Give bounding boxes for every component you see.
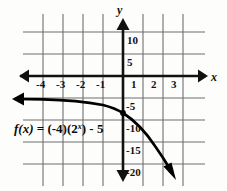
function-equation-label: f(x) = (-4)(2x) - 5 [14,121,104,136]
x-axis-label: x [210,70,217,84]
function-curve [12,93,176,181]
y-tick-label: -15 [126,144,141,156]
x-tick-label: 1 [131,78,137,90]
y-tick-label: -10 [126,122,141,134]
y-tick-label: 10 [127,34,139,46]
x-axis [19,70,208,83]
x-axis-arrow-right [198,70,208,83]
y-tick-label: 5 [127,56,133,68]
y-axis-label: y [115,3,123,17]
equation-body: = (-4)(2 [34,121,78,136]
x-tick-label: 3 [171,78,177,90]
y-tick-label: -5 [126,100,136,112]
y-tick-labels: 10 5 -5 -10 -15 -20 [126,34,141,178]
curve-arrow-down-right [163,163,176,181]
y-intercept-dot [120,110,126,116]
fx-notation: f(x) [14,121,34,136]
y-axis-arrow-up [117,18,130,30]
function-equation-text: f(x) = (-4)(2x) - 5 [14,121,104,136]
x-tick-label: -2 [76,78,86,90]
exponential-function-graph: -4 -3 -2 -1 1 2 3 10 5 -5 -10 -15 -20 x … [0,0,227,191]
x-axis-arrow-left [19,70,29,83]
x-tick-label: 2 [151,78,157,90]
graph-canvas: -4 -3 -2 -1 1 2 3 10 5 -5 -10 -15 -20 x … [0,0,227,191]
curve-arrow-left [12,93,24,106]
x-tick-label: -1 [96,78,105,90]
y-tick-label: -20 [126,166,141,178]
equation-suffix: ) - 5 [82,121,104,136]
x-tick-labels: -4 -3 -2 -1 1 2 3 [36,78,177,90]
x-tick-label: -4 [36,78,46,90]
x-tick-label: -3 [56,78,66,90]
